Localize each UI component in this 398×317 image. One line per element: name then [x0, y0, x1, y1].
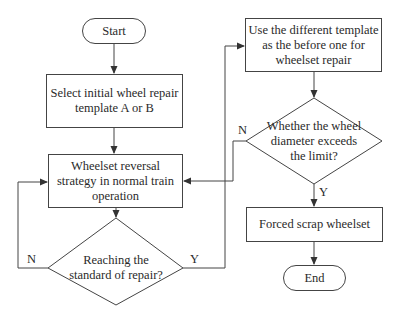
reversal-strategy-node: Wheelset reversal strategy in normal tra… [48, 154, 183, 208]
end-label: End [304, 271, 324, 286]
reversal-line-2: strategy in normal train [57, 174, 174, 189]
diameter-yes-label: Y [319, 185, 328, 200]
arrow-repair-yes [183, 46, 244, 268]
scrap-label: Forced scrap wheelset [259, 217, 370, 232]
select-template-line-2: template A or B [75, 101, 154, 116]
scrap-node: Forced scrap wheelset [246, 207, 383, 242]
start-node: Start [82, 18, 146, 44]
repair-no-label: N [27, 252, 36, 267]
decision-diameter-line-3: the limit? [254, 149, 374, 164]
different-template-node: Use the different template as the before… [245, 18, 382, 72]
reversal-line-3: operation [92, 189, 139, 204]
decision-repair-line-2: standard of repair? [56, 268, 176, 283]
different-template-line-2: as the before one for [262, 38, 365, 53]
different-template-line-3: wheelset repair [275, 53, 351, 68]
end-node: End [283, 265, 346, 291]
select-template-line-1: Select initial wheel repair [50, 86, 178, 101]
reversal-line-1: Wheelset reversal [71, 159, 160, 174]
arrow-diameter-no [184, 141, 246, 181]
repair-yes-label: Y [190, 252, 199, 267]
decision-diameter-text: Whether the wheel diameter exceeds the l… [254, 119, 374, 164]
different-template-line-1: Use the different template [249, 23, 379, 38]
decision-diameter-line-2: diameter exceeds [254, 134, 374, 149]
decision-repair-line-1: Reaching the [56, 253, 176, 268]
start-label: Start [102, 24, 126, 39]
diameter-no-label: N [238, 123, 247, 138]
decision-diameter-line-1: Whether the wheel [254, 119, 374, 134]
decision-repair-text: Reaching the standard of repair? [56, 253, 176, 283]
select-template-node: Select initial wheel repair template A o… [46, 74, 183, 128]
